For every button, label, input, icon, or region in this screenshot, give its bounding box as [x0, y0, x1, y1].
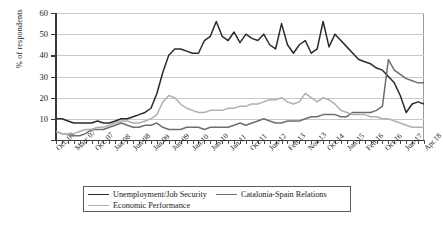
legend-label-economic: Economic Performance [113, 200, 190, 211]
series-line-economic-performance [56, 93, 424, 133]
y-tick-label-30: 30 [22, 72, 48, 82]
legend-row-1: Unemployment/Job Security Catalonia-Spai… [88, 189, 346, 200]
y-tick-label-50: 50 [22, 29, 48, 39]
series-line-unemployment-job-security [56, 21, 424, 123]
legend-swatch-unemployment [88, 194, 109, 195]
y-tick-label-40: 40 [22, 50, 48, 60]
series-lines [56, 13, 424, 140]
legend-label-catalonia: Catalonia-Spain Relations [241, 189, 327, 200]
legend-item-unemployment: Unemployment/Job Security [88, 189, 207, 200]
legend-swatch-economic [88, 205, 109, 206]
legend-row-2: Economic Performance [88, 200, 346, 211]
legend-item-catalonia: Catalonia-Spain Relations [216, 189, 327, 200]
x-tick-label: Apr.18 [422, 131, 443, 152]
y-tick-label-10: 10 [22, 114, 48, 124]
chart-legend: Unemployment/Job Security Catalonia-Spai… [83, 186, 351, 212]
legend-swatch-catalonia [216, 194, 237, 195]
y-tick-label-60: 60 [22, 8, 48, 18]
x-tick-mark [382, 140, 383, 144]
x-tick-mark [92, 140, 93, 144]
x-tick-mark [305, 140, 306, 144]
y-tick-label-20: 20 [22, 93, 48, 103]
legend-item-economic: Economic Performance [88, 200, 190, 211]
legend-label-unemployment: Unemployment/Job Security [113, 189, 207, 200]
